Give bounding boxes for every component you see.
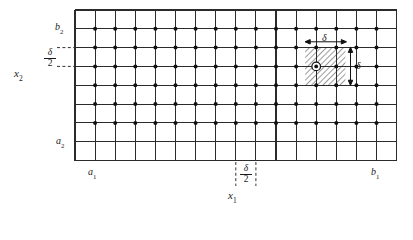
label-b2: b2	[55, 22, 63, 35]
axis-label-x1-sub: 1	[233, 196, 237, 205]
label-a2-sub: 2	[61, 142, 64, 149]
left-half-step-numerator: δ	[44, 48, 56, 58]
label-a2: a2	[56, 136, 64, 149]
axis-label-x2: x2	[14, 68, 23, 82]
bottom-half-step-fraction: δ 2	[240, 164, 252, 184]
label-a1: a1	[88, 167, 96, 180]
bottom-half-step-numerator: δ	[240, 164, 252, 174]
axis-label-x2-sub: 2	[19, 74, 23, 83]
label-b1: b1	[371, 167, 379, 180]
bottom-half-step-denominator: 2	[240, 174, 252, 185]
label-b2-sub: 2	[60, 28, 63, 35]
delta-right-label: δ	[356, 61, 361, 71]
left-half-step-denominator: 2	[44, 58, 56, 69]
label-a1-sub: 1	[93, 173, 96, 180]
circled-node	[312, 62, 321, 71]
axis-label-x1: x1	[228, 190, 237, 204]
left-half-step-fraction: δ 2	[44, 48, 56, 68]
delta-top-label: δ	[322, 33, 327, 43]
label-b1-sub: 1	[376, 173, 379, 180]
